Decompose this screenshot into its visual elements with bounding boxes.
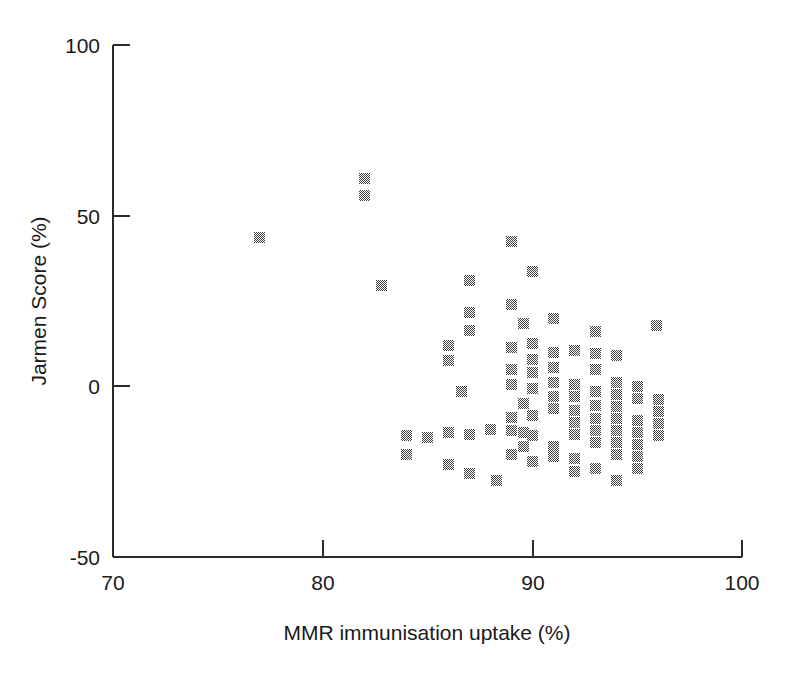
scatter-point <box>527 430 538 441</box>
scatter-point <box>548 362 559 373</box>
scatter-point <box>359 173 370 184</box>
scatter-point <box>376 280 387 291</box>
scatter-point <box>632 451 643 462</box>
x-axis-title: MMR immunisation uptake (%) <box>283 621 570 644</box>
x-axis-ticks <box>113 540 742 557</box>
scatter-point <box>464 429 475 440</box>
scatter-point <box>506 449 517 460</box>
y-axis-title: Jarmen Score (%) <box>27 216 50 385</box>
scatter-point <box>632 381 643 392</box>
scatter-point <box>569 417 580 428</box>
scatter-point <box>464 325 475 336</box>
scatter-point <box>590 348 601 359</box>
scatter-point <box>569 466 580 477</box>
scatter-point <box>653 418 664 429</box>
scatter-point <box>464 275 475 286</box>
scatter-point <box>527 383 538 394</box>
scatter-point <box>590 364 601 375</box>
x-tick-label-80: 80 <box>311 571 334 594</box>
scatter-chart-figure: 100 50 0 -50 70 80 90 100 MMR immunisati… <box>0 0 801 677</box>
scatter-point <box>464 307 475 318</box>
scatter-point <box>491 475 502 486</box>
y-tick-label-100: 100 <box>65 34 100 57</box>
scatter-point <box>485 424 496 435</box>
scatter-point <box>527 354 538 365</box>
scatter-point <box>548 377 559 388</box>
scatter-point <box>443 459 454 470</box>
scatter-point <box>506 412 517 423</box>
scatter-point <box>632 439 643 450</box>
x-tick-label-100: 100 <box>724 571 759 594</box>
x-tick-label-90: 90 <box>521 571 544 594</box>
scatter-point <box>653 394 664 405</box>
scatter-point <box>456 386 467 397</box>
scatter-point <box>527 367 538 378</box>
scatter-point <box>632 427 643 438</box>
scatter-point <box>443 340 454 351</box>
scatter-point <box>569 379 580 390</box>
scatter-point <box>632 415 643 426</box>
scatter-point <box>569 429 580 440</box>
scatter-point <box>506 299 517 310</box>
scatter-point <box>611 437 622 448</box>
scatter-point <box>632 463 643 474</box>
scatter-point <box>590 326 601 337</box>
scatter-point <box>569 391 580 402</box>
scatter-plot: 100 50 0 -50 70 80 90 100 MMR immunisati… <box>0 0 801 677</box>
scatter-point <box>611 377 622 388</box>
scatter-point <box>590 386 601 397</box>
scatter-point <box>611 425 622 436</box>
scatter-point <box>527 338 538 349</box>
y-axis-ticks <box>113 45 130 557</box>
scatter-point <box>611 413 622 424</box>
scatter-point <box>611 475 622 486</box>
scatter-point <box>506 379 517 390</box>
scatter-point <box>590 413 601 424</box>
y-tick-label-0: 0 <box>88 375 100 398</box>
scatter-point <box>548 391 559 402</box>
scatter-point <box>401 430 412 441</box>
scatter-point <box>464 468 475 479</box>
scatter-markers <box>254 173 663 486</box>
scatter-point <box>443 355 454 366</box>
scatter-point <box>254 232 265 243</box>
scatter-point <box>506 425 517 436</box>
scatter-point <box>590 425 601 436</box>
scatter-point <box>590 437 601 448</box>
scatter-point <box>527 456 538 467</box>
y-tick-label-50: 50 <box>77 205 100 228</box>
scatter-point <box>443 427 454 438</box>
scatter-point <box>506 236 517 247</box>
scatter-point <box>506 364 517 375</box>
scatter-point <box>422 432 433 443</box>
scatter-point <box>527 266 538 277</box>
scatter-point <box>518 318 529 329</box>
scatter-point <box>548 347 559 358</box>
scatter-point <box>569 453 580 464</box>
scatter-point <box>611 401 622 412</box>
y-tick-label-minus-50: -50 <box>70 546 100 569</box>
scatter-point <box>506 342 517 353</box>
scatter-point <box>548 451 559 462</box>
scatter-point <box>569 405 580 416</box>
scatter-point <box>651 320 662 331</box>
scatter-point <box>548 403 559 414</box>
scatter-point <box>527 410 538 421</box>
scatter-point <box>548 441 559 452</box>
scatter-point <box>401 449 412 460</box>
scatter-point <box>653 406 664 417</box>
scatter-point <box>632 393 643 404</box>
scatter-point <box>590 400 601 411</box>
scatter-point <box>611 389 622 400</box>
scatter-point <box>518 398 529 409</box>
scatter-point <box>611 350 622 361</box>
scatter-point <box>548 313 559 324</box>
scatter-point <box>590 463 601 474</box>
scatter-point <box>611 449 622 460</box>
scatter-point <box>359 190 370 201</box>
x-tick-label-70: 70 <box>101 571 124 594</box>
scatter-point <box>569 345 580 356</box>
scatter-point <box>653 430 664 441</box>
scatter-point <box>518 441 529 452</box>
